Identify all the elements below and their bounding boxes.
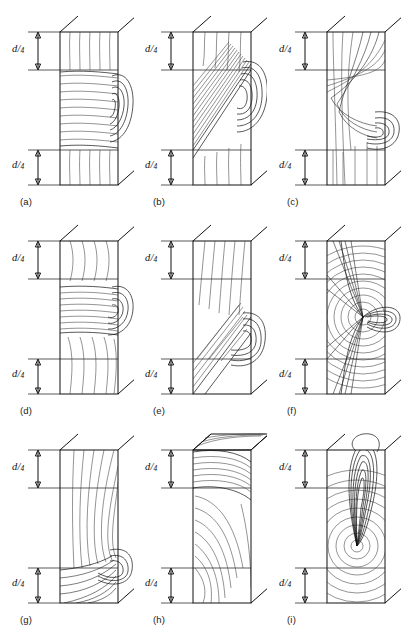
dim-label-bottom: d/4 xyxy=(12,369,24,380)
dimension-top-e xyxy=(161,241,193,279)
panel-caption-i: (i) xyxy=(287,615,296,625)
dimension-bottom-f xyxy=(295,359,327,394)
dim-label-top: d/4 xyxy=(279,44,291,55)
dimension-top-f xyxy=(295,241,327,279)
dimension-bottom-h xyxy=(161,568,193,603)
dimension-top-c xyxy=(295,32,327,70)
panel-d: d/4 d/4 (d) xyxy=(0,209,134,417)
dimension-top-a xyxy=(28,32,60,70)
dim-label-bottom: d/4 xyxy=(145,160,157,171)
dimension-bottom-i xyxy=(295,568,327,603)
dimension-top-h xyxy=(161,450,193,488)
panel-caption-c: (c) xyxy=(287,197,299,207)
dim-label-bottom: d/4 xyxy=(145,369,157,380)
dim-label-bottom: d/4 xyxy=(279,369,291,380)
dim-label-top: d/4 xyxy=(145,253,157,264)
panel-i: d/4 d/4 (i) xyxy=(267,418,401,626)
panel-caption-d: (d) xyxy=(20,406,32,416)
panel-a: d/4 d/4 (a) xyxy=(0,0,134,208)
dimension-top-b xyxy=(161,32,193,70)
dim-label-top: d/4 xyxy=(12,462,24,473)
dim-label-bottom: d/4 xyxy=(12,578,24,589)
panel-h: d/4 d/4 (h) xyxy=(133,418,267,626)
dim-label-bottom: d/4 xyxy=(145,578,157,589)
panel-caption-a: (a) xyxy=(20,197,32,207)
panel-g: d/4 d/4 (g) xyxy=(0,418,134,626)
panel-c: d/4 d/4 (c) xyxy=(267,0,401,208)
dim-label-top: d/4 xyxy=(12,253,24,264)
dimension-bottom-c xyxy=(295,150,327,185)
panel-caption-b: (b) xyxy=(153,197,165,207)
dim-label-bottom: d/4 xyxy=(12,160,24,171)
dimension-bottom-b xyxy=(161,150,193,185)
dim-label-top: d/4 xyxy=(145,462,157,473)
dimension-bottom-g xyxy=(28,568,60,603)
panel-caption-h: (h) xyxy=(153,615,165,625)
dimension-bottom-e xyxy=(161,359,193,394)
dim-label-top: d/4 xyxy=(279,253,291,264)
panel-caption-g: (g) xyxy=(20,615,32,625)
dim-label-top: d/4 xyxy=(279,462,291,473)
panel-e: d/4 d/4 (e) xyxy=(133,209,267,417)
dim-label-bottom: d/4 xyxy=(279,578,291,589)
dimension-top-g xyxy=(28,450,60,488)
dimension-bottom-d xyxy=(28,359,60,394)
dimension-bottom-a xyxy=(28,150,60,185)
timber-knot-figure: d/4 d/4 (a) xyxy=(0,0,404,626)
panel-caption-e: (e) xyxy=(153,406,165,416)
dimension-top-i xyxy=(295,450,327,488)
panel-b: d/4 d/4 (b) xyxy=(133,0,267,208)
panel-f: d/4 d/4 (f) xyxy=(267,209,401,417)
dim-label-top: d/4 xyxy=(12,44,24,55)
dim-label-top: d/4 xyxy=(145,44,157,55)
panel-caption-f: (f) xyxy=(287,406,297,416)
dim-label-bottom: d/4 xyxy=(279,160,291,171)
dimension-top-d xyxy=(28,241,60,279)
